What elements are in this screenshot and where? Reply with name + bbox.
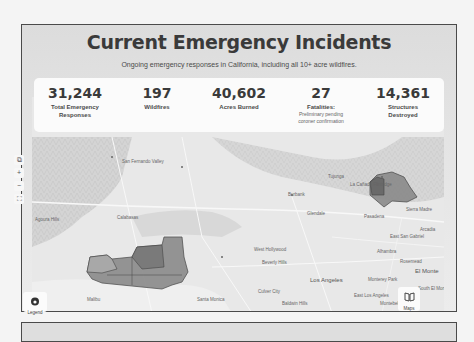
place-label: El Monte: [415, 268, 439, 274]
stat-structures-destroyed: 14,361 Structures Destroyed: [362, 78, 444, 132]
place-label: Glendale: [307, 211, 325, 216]
place-label: Beverly Hills: [262, 260, 287, 265]
place-label: Calabasas: [117, 215, 138, 220]
page-title: Current Emergency Incidents: [22, 31, 456, 53]
place-label: Alhambra: [377, 249, 396, 254]
stat-fatalities: 27 Fatalities: Preliminary pending coron…: [280, 78, 362, 132]
zoom-out-button[interactable]: −: [14, 181, 24, 191]
map-zoom-controls: ⧉ + − ⛶: [13, 155, 25, 204]
book-map-icon: [404, 291, 415, 302]
legend-icon: [30, 296, 40, 306]
place-label: West Hollywood: [254, 247, 286, 252]
maps-button[interactable]: Maps: [398, 287, 420, 311]
place-label: Los Angeles: [310, 277, 343, 283]
place-label: Pasadena: [364, 214, 384, 219]
stat-acres-burned: 40,602 Acres Burned: [198, 78, 280, 132]
layers-icon[interactable]: ⧉: [14, 155, 24, 165]
place-label: Rosemead: [400, 259, 422, 264]
zoom-in-button[interactable]: +: [14, 168, 24, 178]
place-label: Agoura Hills: [35, 217, 59, 222]
stat-wildfires: 197 Wildfires: [116, 78, 198, 132]
place-label: La Cañada Flintridge: [350, 182, 392, 187]
place-label: Culver City: [258, 289, 280, 294]
legend-button[interactable]: Legend: [23, 292, 47, 312]
place-label: East San Gabriel: [390, 234, 424, 239]
place-label: Malibu: [87, 297, 100, 302]
stat-total-responses: 31,244 Total Emergency Responses: [34, 78, 116, 132]
stats-bar: 31,244 Total Emergency Responses 197 Wil…: [34, 78, 444, 132]
incidents-panel: Current Emergency Incidents Ongoing emer…: [21, 24, 457, 312]
place-label: Santa Monica: [197, 297, 225, 302]
place-label: Baldwin Hills: [282, 301, 308, 306]
next-panel: [21, 322, 457, 342]
place-label: Monterey Park: [368, 277, 397, 282]
place-label: Tujunga: [328, 174, 344, 179]
page-subtitle: Ongoing emergency responses in Californi…: [22, 61, 456, 68]
place-label: Sierra Madre: [406, 207, 432, 212]
place-label: Arcadia: [420, 227, 435, 232]
place-label: East Los Angeles: [354, 293, 389, 298]
place-label: South El Monte: [418, 286, 444, 291]
place-label: San Fernando Valley: [122, 159, 164, 164]
place-label: Burbank: [288, 192, 305, 197]
fullscreen-icon[interactable]: ⛶: [14, 194, 24, 204]
